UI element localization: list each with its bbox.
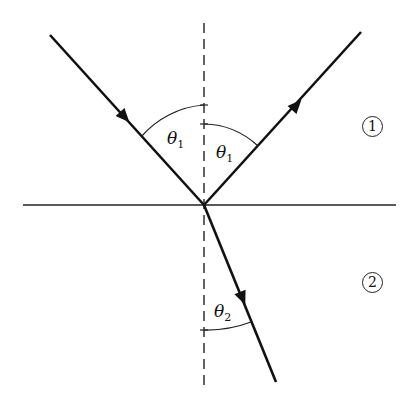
- diagram-canvas: θ1 θ1 θ2 1 2: [0, 0, 415, 407]
- theta1-incident-label: θ1: [167, 130, 184, 150]
- reflected-ray: [204, 32, 361, 205]
- theta2-refracted-label: θ2: [214, 303, 231, 323]
- medium-1-label: 1: [362, 116, 383, 137]
- ray-diagram: [0, 0, 415, 407]
- refracted-arrow-icon: [234, 290, 250, 307]
- reflected-angle-arc: [204, 124, 258, 146]
- theta1-reflected-label: θ1: [216, 144, 233, 164]
- medium-2-label: 2: [362, 272, 383, 293]
